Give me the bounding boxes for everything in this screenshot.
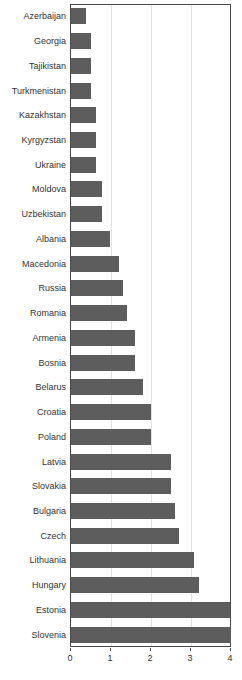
- bar: [71, 577, 199, 593]
- category-label: Moldova: [0, 184, 66, 194]
- category-label: Belarus: [0, 382, 66, 392]
- bar-track: [71, 202, 231, 227]
- category-label: Turkmenistan: [0, 86, 66, 96]
- bar-row: Estonia: [0, 598, 242, 623]
- bar: [71, 503, 175, 519]
- bar-track: [71, 227, 231, 252]
- bar-track: [71, 4, 231, 29]
- x-tick-mark: [150, 648, 151, 651]
- x-tick-mark: [70, 648, 71, 651]
- bar: [71, 429, 151, 445]
- bar-row: Latvia: [0, 449, 242, 474]
- bar-row: Tajikistan: [0, 53, 242, 78]
- bar-row: Russia: [0, 276, 242, 301]
- bar-track: [71, 400, 231, 425]
- x-axis: 01234: [0, 648, 242, 670]
- bar: [71, 602, 230, 618]
- category-label: Bulgaria: [0, 506, 66, 516]
- bar-track: [71, 103, 231, 128]
- bar-row: Slovakia: [0, 474, 242, 499]
- bar-row: Georgia: [0, 29, 242, 54]
- bar: [71, 33, 91, 49]
- bar: [71, 528, 179, 544]
- category-label: Albania: [0, 234, 66, 244]
- category-label: Latvia: [0, 457, 66, 467]
- category-label: Ukraine: [0, 160, 66, 170]
- x-tick-label: 4: [220, 653, 240, 664]
- bar-track: [71, 523, 231, 548]
- bar: [71, 305, 127, 321]
- bar: [71, 256, 119, 272]
- bar-track: [71, 128, 231, 153]
- bar-row: Azerbaijan: [0, 4, 242, 29]
- category-label: Poland: [0, 432, 66, 442]
- bar-track: [71, 177, 231, 202]
- bar-row: Hungary: [0, 573, 242, 598]
- bar: [71, 280, 123, 296]
- bar-track: [71, 598, 231, 623]
- bar-row: Poland: [0, 424, 242, 449]
- category-label: Romania: [0, 308, 66, 318]
- bar-track: [71, 548, 231, 573]
- bar-row: Romania: [0, 301, 242, 326]
- bar-track: [71, 573, 231, 598]
- category-label: Bosnia: [0, 358, 66, 368]
- bar-row: Bulgaria: [0, 499, 242, 524]
- bar-row: Lithuania: [0, 548, 242, 573]
- bar-row: Armenia: [0, 326, 242, 351]
- bar: [71, 454, 171, 470]
- category-label: Russia: [0, 283, 66, 293]
- x-tick-label: 2: [140, 653, 160, 664]
- category-label: Czech: [0, 531, 66, 541]
- bar: [71, 552, 194, 568]
- category-label: Uzbekistan: [0, 209, 66, 219]
- bar-row: Bosnia: [0, 350, 242, 375]
- x-tick-label: 0: [60, 653, 80, 664]
- bar: [71, 627, 231, 643]
- bar: [71, 83, 91, 99]
- bar: [71, 379, 143, 395]
- category-label: Slovakia: [0, 481, 66, 491]
- bar-row: Croatia: [0, 400, 242, 425]
- bar: [71, 132, 96, 148]
- bar-row: Uzbekistan: [0, 202, 242, 227]
- bar-row: Belarus: [0, 375, 242, 400]
- bar-track: [71, 251, 231, 276]
- bar-track: [71, 350, 231, 375]
- bar-track: [71, 449, 231, 474]
- category-label: Estonia: [0, 605, 66, 615]
- category-label: Tajikistan: [0, 61, 66, 71]
- bar-track: [71, 622, 231, 647]
- bar-track: [71, 78, 231, 103]
- category-label: Kyrgyzstan: [0, 135, 66, 145]
- bar-row: Turkmenistan: [0, 78, 242, 103]
- category-label: Georgia: [0, 36, 66, 46]
- bar-track: [71, 301, 231, 326]
- bar-track: [71, 276, 231, 301]
- bar-track: [71, 474, 231, 499]
- bar-row: Moldova: [0, 177, 242, 202]
- bar: [71, 231, 110, 247]
- category-label: Lithuania: [0, 555, 66, 565]
- bar: [71, 206, 102, 222]
- category-label: Hungary: [0, 580, 66, 590]
- bar-row: Slovenia: [0, 622, 242, 647]
- bar: [71, 355, 135, 371]
- x-tick-label: 1: [100, 653, 120, 664]
- bar-row: Ukraine: [0, 152, 242, 177]
- bar: [71, 330, 135, 346]
- bar-row: Kazakhstan: [0, 103, 242, 128]
- x-tick-label: 3: [180, 653, 200, 664]
- x-tick-mark: [190, 648, 191, 651]
- category-label: Kazakhstan: [0, 110, 66, 120]
- category-label: Croatia: [0, 407, 66, 417]
- bar: [71, 478, 171, 494]
- bar-row: Albania: [0, 227, 242, 252]
- x-tick-mark: [230, 648, 231, 651]
- category-label: Macedonia: [0, 259, 66, 269]
- clipped-title-remnant: [34, 0, 154, 3]
- bar-track: [71, 424, 231, 449]
- bar: [71, 8, 86, 24]
- bar: [71, 181, 102, 197]
- category-label: Azerbaijan: [0, 11, 66, 21]
